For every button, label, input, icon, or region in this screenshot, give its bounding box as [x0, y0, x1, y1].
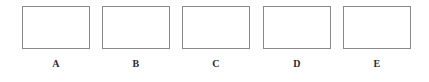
panel-box-b	[102, 6, 170, 49]
panel-cell-b: B	[102, 0, 170, 82]
panel-cell-c: C	[182, 0, 250, 82]
panel-label-a: A	[22, 58, 90, 70]
panel-label-d: D	[263, 58, 331, 70]
panel-label-c: C	[182, 58, 250, 70]
panel-box-c	[182, 6, 250, 49]
panel-box-e	[343, 6, 411, 49]
panel-cell-d: D	[263, 0, 331, 82]
panel-box-d	[263, 6, 331, 49]
panel-row: A B C D E	[0, 0, 429, 82]
figure-panel-group: A B C D E	[0, 0, 429, 82]
panel-cell-a: A	[22, 0, 90, 82]
panel-box-a	[22, 6, 90, 49]
panel-label-b: B	[102, 58, 170, 70]
panel-label-e: E	[343, 58, 411, 70]
panel-cell-e: E	[343, 0, 411, 82]
